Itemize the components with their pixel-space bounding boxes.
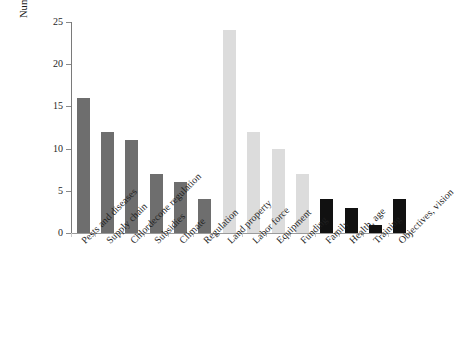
y-axis-line xyxy=(71,22,72,233)
y-tick-label: 25 xyxy=(53,15,63,28)
y-axis-title: Number of farmers xyxy=(18,0,32,61)
y-tick: 15 xyxy=(66,106,71,107)
bar xyxy=(223,30,236,233)
y-tick-label: 10 xyxy=(53,142,63,155)
y-tick: 25 xyxy=(66,22,71,23)
y-tick: 20 xyxy=(66,64,71,65)
y-tick: 10 xyxy=(66,149,71,150)
y-tick-label: 0 xyxy=(58,226,63,239)
y-tick: 5 xyxy=(66,191,71,192)
bar xyxy=(77,98,90,233)
x-tick xyxy=(71,233,72,237)
y-tick-label: 5 xyxy=(58,184,63,197)
y-tick-label: 20 xyxy=(53,57,63,70)
y-tick-label: 15 xyxy=(53,99,63,112)
